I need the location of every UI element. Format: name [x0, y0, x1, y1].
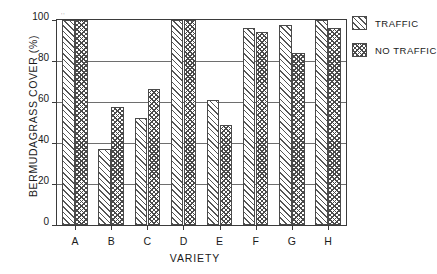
- x-axis-tick-label-c: C: [132, 235, 162, 247]
- x-axis-tick: [292, 225, 293, 230]
- x-axis-tick: [147, 225, 148, 230]
- x-axis-tick: [328, 225, 329, 230]
- y-axis-tick-label: 60: [38, 98, 49, 99]
- x-axis-title: VARIETY: [45, 252, 345, 264]
- legend-label: NO TRAFFIC: [375, 45, 437, 56]
- x-axis-tick-label-b: B: [96, 235, 126, 247]
- diagonal-hatch-swatch: [352, 16, 367, 30]
- bar-a-no-traffic: [75, 20, 88, 225]
- y-axis-tick-label: 20: [38, 180, 49, 181]
- bar-b-traffic: [98, 149, 111, 225]
- x-axis-tick: [220, 225, 221, 230]
- bar-d-traffic: [171, 20, 184, 225]
- y-axis-tick: [52, 61, 57, 62]
- plot-area: 020406080100 ABCDEFGH: [56, 19, 347, 226]
- legend-label: TRAFFIC: [375, 18, 419, 29]
- x-axis-tick-label-d: D: [168, 235, 198, 247]
- bar-g-no-traffic: [292, 53, 305, 225]
- bar-c-no-traffic: [148, 89, 161, 225]
- y-axis-tick-label: 100: [32, 16, 49, 17]
- x-axis-tick-label-f: F: [241, 235, 271, 247]
- bar-c-traffic: [135, 118, 148, 225]
- y-axis-tick-label: 0: [43, 221, 49, 222]
- bar-e-no-traffic: [220, 125, 233, 225]
- x-axis-tick-label-a: A: [60, 235, 90, 247]
- cross-hatch-swatch: [352, 43, 367, 57]
- bar-e-traffic: [207, 100, 220, 225]
- bar-f-no-traffic: [256, 32, 269, 225]
- bar-g-traffic: [279, 25, 292, 225]
- bar-d-no-traffic: [184, 20, 197, 225]
- chart-legend: TRAFFICNO TRAFFIC: [352, 16, 437, 70]
- bar-f-traffic: [243, 28, 256, 225]
- y-axis-tick: [52, 20, 57, 21]
- legend-item-no-traffic: NO TRAFFIC: [352, 43, 437, 57]
- x-axis-tick-label-e: E: [205, 235, 235, 247]
- x-axis-tick: [111, 225, 112, 230]
- legend-item-traffic: TRAFFIC: [352, 16, 437, 30]
- x-axis-tick: [256, 225, 257, 230]
- y-axis-tick: [52, 225, 57, 226]
- y-axis-tick: [52, 102, 57, 103]
- y-axis-tick-label: 40: [38, 139, 49, 140]
- y-axis-title: BERMUDAGRASS COVER (%): [27, 6, 39, 226]
- bar-a-traffic: [62, 20, 75, 225]
- bar-h-no-traffic: [328, 28, 341, 225]
- scan-artifact: '': [61, 12, 75, 17]
- x-axis-tick-label-h: H: [313, 235, 343, 247]
- bar-b-no-traffic: [111, 107, 124, 225]
- x-axis-tick: [75, 225, 76, 230]
- y-axis-tick: [52, 143, 57, 144]
- x-axis-tick: [183, 225, 184, 230]
- y-axis-tick: [52, 184, 57, 185]
- x-axis-tick-label-g: G: [277, 235, 307, 247]
- bar-h-traffic: [315, 20, 328, 225]
- y-axis-tick-label: 80: [38, 57, 49, 58]
